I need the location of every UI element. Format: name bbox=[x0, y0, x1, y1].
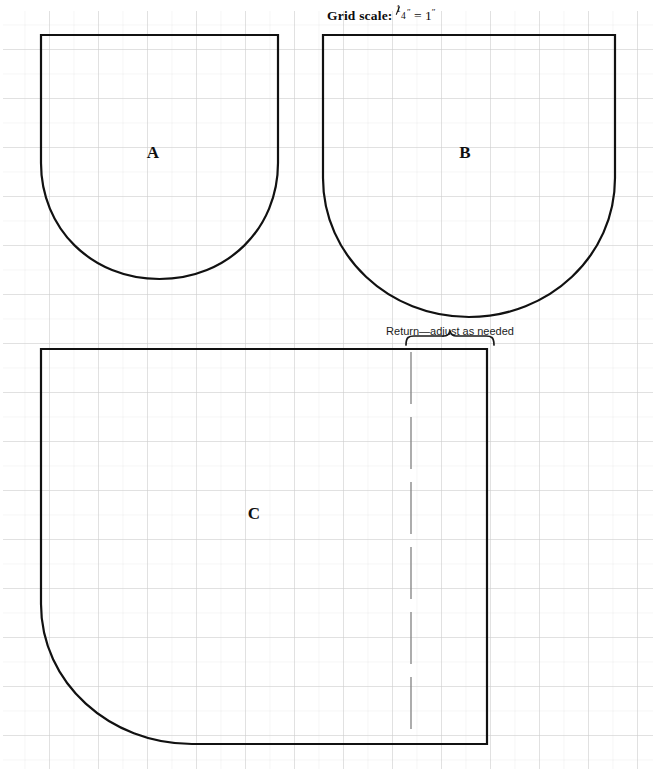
equals-sign: = bbox=[414, 8, 422, 23]
pattern-diagram-page: Grid scale: 1 4 ″ = 1″ A B C Return—adju… bbox=[0, 0, 653, 769]
return-callout-label: Return—adjust as needed bbox=[386, 325, 514, 337]
pattern-piece-a-label: A bbox=[147, 144, 159, 161]
pattern-piece-b-label: B bbox=[459, 144, 470, 161]
inch-mark-value: ″ bbox=[432, 7, 436, 17]
grid-scale-title: Grid scale: 1 4 ″ = 1″ bbox=[327, 7, 436, 24]
annotation-labels: Grid scale: 1 4 ″ = 1″ A B C Return—adju… bbox=[0, 0, 653, 769]
grid-scale-title-prefix: Grid scale: bbox=[327, 8, 393, 23]
pattern-piece-c-label: C bbox=[248, 505, 260, 522]
scale-value: 1 bbox=[425, 8, 432, 23]
quarter-inch-fraction: 1 4 bbox=[396, 7, 407, 20]
